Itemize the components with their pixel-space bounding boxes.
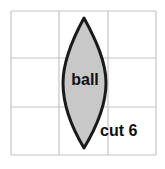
pattern-diagram: ball cut 6 (0, 0, 165, 169)
ball-label: ball (71, 71, 99, 88)
cut-quantity-label: cut 6 (100, 122, 137, 139)
pattern-diagram-svg: ball cut 6 (0, 0, 165, 169)
